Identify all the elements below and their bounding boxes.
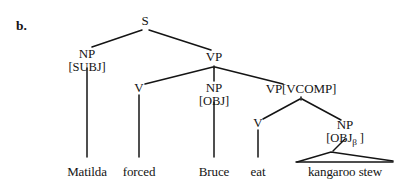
branch-s-to-np-subj [92,30,142,47]
node-v-embedded: V [253,116,262,130]
node-np-obj-category: NP [199,81,229,95]
terminal-forced: forced [123,165,156,178]
triangle-over-kangaroo-stew [297,152,393,162]
terminal-eat: eat [251,165,266,178]
branch-vp-vcomp-to-v2 [263,99,300,119]
node-v-matrix-category: V [134,81,143,95]
terminal-matilda: Matilda [67,165,107,178]
node-np-objb: NP [OBJβ ] [326,118,364,145]
node-np-objb-features-post: ] [357,131,364,145]
node-s-category: S [141,14,148,28]
syntax-tree-figure: b. [0,0,401,183]
node-v-matrix: V [134,81,143,95]
node-np-objb-features-pre: [OBJ [326,131,352,145]
node-np-subj-features: [SUBJ] [69,61,106,74]
branch-s-to-vp [149,30,211,50]
branch-vp-vcomp-to-np-objb [302,99,341,120]
node-v-embedded-category: V [253,116,262,130]
figure-item-label: b. [16,19,27,33]
node-np-subj: NP [SUBJ] [69,47,106,74]
node-vp-vcomp-category: VP[VCOMP] [266,82,337,96]
node-vp-vcomp: VP[VCOMP] [266,82,337,96]
terminal-kangaroo-stew: kangaroo stew [308,165,382,178]
node-np-obj: NP [OBJ] [199,81,229,108]
node-vp-category: VP [206,50,222,64]
node-np-objb-features: [OBJβ ] [326,132,364,145]
node-np-objb-category: NP [326,118,364,132]
node-np-subj-category: NP [69,47,106,61]
node-np-obj-features: [OBJ] [199,95,229,108]
node-vp: VP [206,50,222,64]
terminal-bruce: Bruce [199,165,230,178]
node-s: S [141,14,148,28]
